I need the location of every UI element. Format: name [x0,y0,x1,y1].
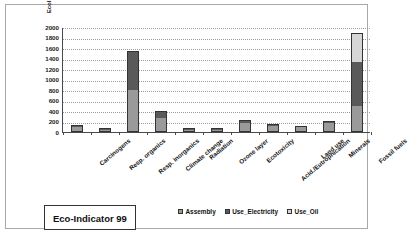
bar-slot [315,28,343,132]
x-axis-tickmark [119,132,120,135]
bar-segment [296,127,306,131]
x-axis-tickmark [315,132,316,135]
bar-segment [128,90,138,131]
bar-segment [184,130,194,131]
bar-slot [119,28,147,132]
x-axis-tickmark [63,132,64,135]
x-axis-tickmark [371,132,372,135]
y-axis-label: EcoIndicator99 [Pt] [45,0,52,38]
bar-slot [287,28,315,132]
x-axis-tickmark [147,132,148,135]
bar-segment [268,126,278,131]
bar-segment [352,34,362,61]
x-axis-tickmark [91,132,92,135]
bar-segment [72,127,82,131]
y-axis-tick-label: 800 [33,88,59,94]
x-axis-tickmark [343,132,344,135]
bar-slot [259,28,287,132]
x-axis-tickmark [231,132,232,135]
bar-segment [128,52,138,90]
legend-label: Assembly [186,208,216,215]
bar-slot [91,28,119,132]
chart-legend: AssemblyUse_ElectricityUse_Oil [178,208,318,215]
x-axis-tickmark [287,132,288,135]
x-axis-tickmark [175,132,176,135]
y-axis-tick-label: 200 [33,119,59,125]
bar-segment [352,106,362,131]
bar-segment [324,123,334,131]
y-axis-tick-label: 0 [33,130,59,136]
chart-title-box: Eco-Indicator 99 [44,205,136,230]
stacked-bar[interactable] [183,128,195,132]
stacked-bar[interactable] [323,121,335,132]
legend-item[interactable]: Assembly [178,208,216,215]
bar-segment [156,118,166,131]
legend-item[interactable]: Use_Electricity [225,208,278,215]
bar-segment [240,123,250,131]
x-axis-tick-label: Carcinogens [98,137,132,167]
stacked-bar[interactable] [211,128,223,132]
bar-slot [203,28,231,132]
bar-slot [147,28,175,132]
y-axis-tick-label: 600 [33,98,59,104]
legend-label: Use_Oil [295,208,319,215]
stacked-bar[interactable] [127,51,139,132]
legend-swatch [225,209,230,214]
legend-swatch [287,209,292,214]
stacked-bar[interactable] [71,125,83,132]
stacked-bar[interactable] [155,111,167,132]
y-axis-tick-label: 400 [33,109,59,115]
bar-slot [343,28,371,132]
y-axis-tick-label: 1400 [33,56,59,62]
x-axis-tick-label: Fossil fuels [377,137,408,165]
y-axis-tick-label: 1600 [33,46,59,52]
x-axis-tickmark [259,132,260,135]
bar-segment [352,62,362,106]
stacked-bar[interactable] [295,126,307,132]
stacked-bar[interactable] [99,128,111,132]
bar-slot [175,28,203,132]
y-axis-tick-label: 1200 [33,67,59,73]
x-axis-tickmark [203,132,204,135]
legend-item[interactable]: Use_Oil [287,208,318,215]
plot-area: EcoIndicator99 [Pt] 02004006008001000120… [62,28,370,133]
chart-title: Eco-Indicator 99 [53,213,127,224]
stacked-bar[interactable] [267,124,279,132]
stacked-bar[interactable] [351,33,363,132]
bar-slot [63,28,91,132]
bar-slot [231,28,259,132]
legend-swatch [178,209,183,214]
y-axis-tick-label: 1800 [33,35,59,41]
y-axis-tick-label: 2000 [33,25,59,31]
legend-label: Use_Electricity [232,208,278,215]
bar-segment [100,130,110,131]
y-axis-tick-label: 1000 [33,77,59,83]
stacked-bar[interactable] [239,120,251,132]
chart-frame: EcoIndicator99 [Pt] 02004006008001000120… [5,4,368,229]
bar-segment [212,130,222,131]
x-axis-tick-label: Ozone layer [237,137,269,165]
